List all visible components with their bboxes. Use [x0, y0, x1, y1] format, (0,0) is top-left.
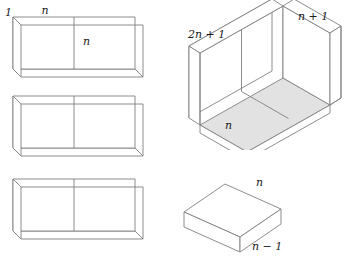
slab-top-edge-label: n	[41, 5, 48, 17]
slab-top: 1 n n	[5, 5, 145, 95]
brick-top-edge-label: n	[256, 176, 263, 189]
small-brick: n n − 1	[180, 170, 345, 257]
brick-front-edge-label: n − 1	[252, 240, 282, 253]
open-box: 2n + 1 n + 1 n	[170, 0, 345, 150]
slab-bottom	[5, 175, 145, 255]
box-right-wall-label: n + 1	[298, 10, 328, 23]
box-floor-label: n	[225, 119, 232, 132]
slab-thickness-label: 1	[5, 6, 12, 19]
packing-diagram: 1 n n	[0, 0, 345, 257]
slab-divider-label: n	[83, 35, 90, 48]
slab-middle	[5, 92, 145, 172]
box-left-wall-label: 2n + 1	[187, 28, 225, 41]
